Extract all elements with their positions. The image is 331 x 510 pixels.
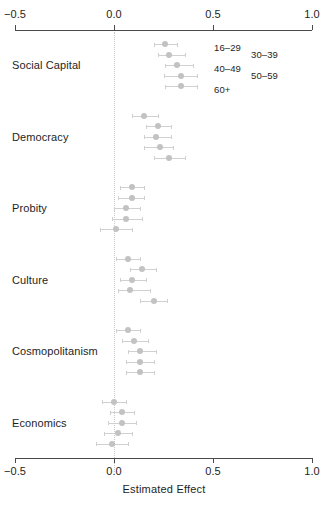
point-estimate xyxy=(139,266,145,272)
confidence-interval-cap xyxy=(146,125,147,129)
confidence-interval-cap xyxy=(142,217,143,221)
confidence-interval-cap xyxy=(193,64,194,68)
confidence-interval-cap xyxy=(110,411,111,415)
confidence-interval-cap xyxy=(197,85,198,89)
confidence-interval-cap xyxy=(185,53,186,57)
axis-tick-label: 1.0 xyxy=(304,465,320,477)
confidence-interval-cap xyxy=(116,329,117,333)
axis-tick xyxy=(312,25,313,30)
confidence-interval-cap xyxy=(96,442,97,446)
point-estimate xyxy=(125,327,131,333)
point-estimate xyxy=(166,52,172,58)
axis-tick xyxy=(15,458,16,463)
confidence-interval-cap xyxy=(120,278,121,282)
confidence-interval-cap xyxy=(134,411,135,415)
confidence-interval-cap xyxy=(140,299,141,303)
legend-item-40-49: 40–49 xyxy=(214,63,241,74)
point-estimate xyxy=(127,287,133,293)
axis-tick-label: 1.0 xyxy=(304,8,320,20)
point-estimate xyxy=(141,113,147,119)
confidence-interval-cap xyxy=(177,43,178,47)
axis-tick-label: 0.5 xyxy=(205,465,221,477)
axis-tick xyxy=(114,458,115,463)
confidence-interval-cap xyxy=(165,85,166,89)
point-estimate xyxy=(111,399,117,405)
confidence-interval-cap xyxy=(126,400,127,404)
axis-tick-label: 0.5 xyxy=(205,8,221,20)
point-estimate xyxy=(113,226,119,232)
confidence-interval-cap xyxy=(132,228,133,232)
confidence-interval-cap xyxy=(126,371,127,375)
confidence-interval-cap xyxy=(164,74,165,78)
point-estimate xyxy=(131,338,137,344)
confidence-interval-cap xyxy=(144,186,145,190)
axis-tick xyxy=(312,458,313,463)
point-estimate xyxy=(123,205,129,211)
confidence-interval-cap xyxy=(140,257,141,261)
confidence-interval-cap xyxy=(171,125,172,129)
confidence-interval-cap xyxy=(118,289,119,293)
confidence-interval-cap xyxy=(144,146,145,150)
confidence-interval-cap xyxy=(136,421,137,425)
confidence-interval-cap xyxy=(150,289,151,293)
confidence-interval-cap xyxy=(154,360,155,364)
confidence-interval-cap xyxy=(128,442,129,446)
confidence-interval-cap xyxy=(154,43,155,47)
point-estimate xyxy=(129,195,135,201)
confidence-interval-cap xyxy=(102,400,103,404)
confidence-interval-cap xyxy=(146,278,147,282)
confidence-interval-cap xyxy=(156,350,157,354)
axis-tick xyxy=(15,25,16,30)
legend-item-60+: 60+ xyxy=(214,84,230,95)
category-label-culture: Culture xyxy=(12,274,48,286)
axis-tick xyxy=(114,25,115,30)
confidence-interval-cap xyxy=(100,228,101,232)
confidence-interval-cap xyxy=(167,299,168,303)
x-axis-title: Estimated Effect xyxy=(122,483,205,495)
point-estimate xyxy=(137,369,143,375)
axis-tick xyxy=(213,458,214,463)
confidence-interval-cap xyxy=(126,360,127,364)
point-estimate xyxy=(178,83,184,89)
point-estimate xyxy=(125,256,131,262)
confidence-interval-cap xyxy=(104,432,105,436)
point-estimate xyxy=(174,62,180,68)
confidence-interval-cap xyxy=(112,217,113,221)
confidence-interval-cap xyxy=(140,207,141,211)
point-estimate xyxy=(162,41,168,47)
legend-item-16-29: 16–29 xyxy=(214,42,241,53)
point-estimate xyxy=(115,430,121,436)
point-estimate xyxy=(129,277,135,283)
top-axis-line xyxy=(15,30,312,31)
point-estimate xyxy=(109,441,115,447)
point-estimate xyxy=(119,420,125,426)
confidence-interval-cap xyxy=(158,114,159,118)
confidence-interval-cap xyxy=(197,74,198,78)
category-label-economics: Economics xyxy=(12,417,67,429)
category-label-social-capital: Social Capital xyxy=(12,59,81,71)
confidence-interval-cap xyxy=(171,135,172,139)
point-estimate xyxy=(166,155,172,161)
point-estimate xyxy=(151,298,157,304)
axis-tick-label: −0.5 xyxy=(4,465,26,477)
legend-item-30-39: 30–39 xyxy=(251,49,278,60)
confidence-interval-cap xyxy=(156,268,157,272)
axis-tick-label: 0.0 xyxy=(106,465,122,477)
confidence-interval-cap xyxy=(173,146,174,150)
confidence-interval-cap xyxy=(116,257,117,261)
point-estimate xyxy=(178,73,184,79)
confidence-interval-cap xyxy=(154,156,155,160)
confidence-interval-cap xyxy=(165,64,166,68)
point-estimate xyxy=(153,134,159,140)
zero-reference-line xyxy=(114,32,115,472)
confidence-interval-cap xyxy=(132,432,133,436)
confidence-interval-cap xyxy=(108,421,109,425)
confidence-interval-cap xyxy=(118,196,119,200)
confidence-interval-cap xyxy=(144,196,145,200)
confidence-interval-cap xyxy=(140,329,141,333)
legend-item-50-59: 50–59 xyxy=(251,70,278,81)
confidence-interval-cap xyxy=(144,135,145,139)
confidence-interval-cap xyxy=(148,339,149,343)
point-estimate xyxy=(119,409,125,415)
confidence-interval-cap xyxy=(120,186,121,190)
